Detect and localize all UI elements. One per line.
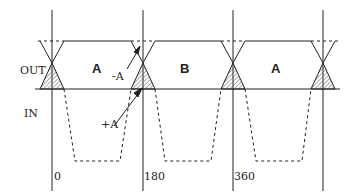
region-label-a1: A [92,61,102,76]
plus-a-annotation: +A [101,118,119,131]
tick-label-360: 360 [234,170,255,183]
out-transitions [40,41,335,63]
tick-label-180: 180 [144,170,165,183]
out-label: OUT [20,64,46,77]
hatched-triangle [311,63,335,89]
hatched-triangle [221,63,245,89]
vertical-markers [52,10,323,191]
in-label: IN [24,107,38,120]
minus-a-annotation: -A [112,70,125,83]
region-label-b: B [180,61,189,76]
hatched-triangle [131,63,155,89]
phase-diagram: OUT IN A B A -A +A 0 180 360 [0,0,360,196]
tick-label-0: 0 [54,170,61,183]
region-label-a2: A [271,61,281,76]
